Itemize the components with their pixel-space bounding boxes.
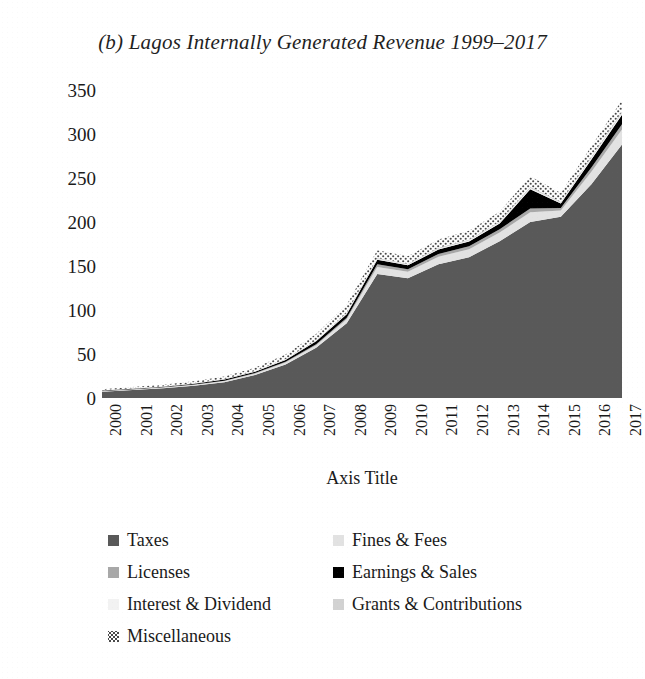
legend-row: LicensesEarnings & Sales [108, 556, 548, 588]
legend-row: TaxesFines & Fees [108, 524, 548, 556]
y-tick-label: 300 [68, 125, 97, 144]
x-tick-label: 2000 [108, 404, 124, 436]
x-tick-label: 2011 [444, 404, 460, 435]
legend-swatch-icon [333, 567, 344, 578]
legend-item-grants-contributions[interactable]: Grants & Contributions [333, 595, 548, 613]
legend-label: Taxes [127, 531, 169, 549]
x-tick-label: 2005 [261, 404, 277, 436]
legend-swatch-icon [108, 567, 119, 578]
x-tick-label: 2012 [475, 404, 491, 436]
legend-label: Fines & Fees [352, 531, 447, 549]
area-series-taxes [102, 145, 622, 398]
x-tick-label: 2016 [597, 404, 613, 436]
plot-area [102, 90, 622, 398]
legend-label: Earnings & Sales [352, 563, 477, 581]
stacked-area-plot [102, 90, 622, 398]
legend-item-licenses[interactable]: Licenses [108, 563, 333, 581]
legend-label: Grants & Contributions [352, 595, 522, 613]
y-tick-label: 200 [68, 213, 97, 232]
legend-item-taxes[interactable]: Taxes [108, 531, 333, 549]
x-tick-label: 2013 [506, 404, 522, 436]
y-tick-label: 50 [77, 345, 96, 364]
x-axis-ticks: 2000200120022003200420052006200720082009… [102, 404, 622, 466]
y-tick-label: 150 [68, 257, 97, 276]
x-tick-label: 2017 [628, 404, 644, 436]
legend-swatch-icon [108, 535, 119, 546]
x-tick-label: 2015 [567, 404, 583, 436]
x-tick-label: 2004 [230, 404, 246, 436]
legend-swatch-icon [333, 535, 344, 546]
legend-item-interest-dividend[interactable]: Interest & Dividend [108, 595, 333, 613]
x-tick-label: 2006 [292, 404, 308, 436]
x-tick-label: 2009 [383, 404, 399, 436]
y-tick-label: 100 [68, 301, 97, 320]
legend-item-earnings-sales[interactable]: Earnings & Sales [333, 563, 548, 581]
chart-figure: (b) Lagos Internally Generated Revenue 1… [0, 0, 645, 679]
x-axis-title: Axis Title [102, 468, 622, 489]
legend-item-fines-fees[interactable]: Fines & Fees [333, 531, 548, 549]
legend-label: Licenses [127, 563, 190, 581]
x-tick-label: 2003 [200, 404, 216, 436]
legend-item-miscellaneous[interactable]: Miscellaneous [108, 627, 333, 645]
legend-swatch-icon [333, 599, 344, 610]
chart-legend: TaxesFines & FeesLicensesEarnings & Sale… [108, 524, 548, 652]
page-title: (b) Lagos Internally Generated Revenue 1… [0, 30, 645, 55]
legend-label: Miscellaneous [127, 627, 231, 645]
x-tick-label: 2007 [322, 404, 338, 436]
x-tick-label: 2008 [353, 404, 369, 436]
legend-swatch-icon [108, 599, 119, 610]
y-axis-ticks: 050100150200250300350 [44, 90, 96, 398]
legend-row: Miscellaneous [108, 620, 548, 652]
legend-row: Interest & DividendGrants & Contribution… [108, 588, 548, 620]
x-tick-label: 2002 [169, 404, 185, 436]
x-tick-label: 2014 [536, 404, 552, 436]
y-tick-label: 350 [68, 81, 97, 100]
legend-label: Interest & Dividend [127, 595, 271, 613]
y-tick-label: 250 [68, 169, 97, 188]
x-tick-label: 2001 [139, 404, 155, 436]
y-tick-label: 0 [87, 389, 97, 408]
legend-swatch-icon [108, 631, 119, 642]
x-tick-label: 2010 [414, 404, 430, 436]
